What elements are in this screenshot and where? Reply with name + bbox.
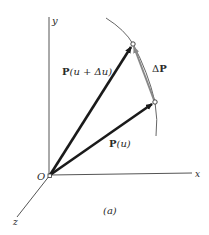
parametric-curve-derivative-diagram: y x z O P(u + Δu) P(u) ΔP (a)	[0, 0, 209, 235]
label-delta-p: ΔP	[152, 63, 167, 74]
delta-p-vector	[134, 47, 154, 100]
figure-caption: (a)	[103, 205, 117, 216]
label-p-u-plus-delta-u: P(u + Δu)	[62, 66, 112, 77]
y-axis-label: y	[51, 15, 58, 26]
point-p-u	[153, 100, 157, 104]
point-p-u-plus-delta-u	[131, 42, 135, 46]
x-axis	[50, 173, 192, 175]
label-p-u: P(u)	[109, 138, 131, 149]
vector-p-u	[50, 104, 152, 175]
z-axis-label: z	[12, 217, 18, 227]
origin-label: O	[37, 171, 45, 182]
x-axis-label: x	[195, 169, 200, 179]
origin-point	[48, 174, 52, 178]
